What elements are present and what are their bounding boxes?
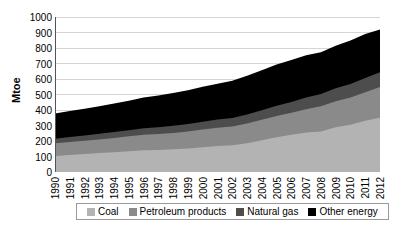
chart-legend: CoalPetroleum productsNatural gasOther e… [76, 203, 389, 220]
plot-area [55, 17, 380, 172]
legend-swatch-icon [87, 208, 95, 216]
y-tick-800: 800 [35, 43, 52, 54]
legend-label: Other energy [319, 206, 377, 217]
x-tick-1997: 1997 [153, 177, 164, 199]
y-tick-400: 400 [35, 105, 52, 116]
x-tick-1994: 1994 [109, 177, 120, 199]
y-tick-1000: 1000 [30, 12, 52, 23]
legend-swatch-icon [236, 208, 244, 216]
x-tick-2012: 2012 [375, 177, 386, 199]
y-tick-300: 300 [35, 120, 52, 131]
y-tick-700: 700 [35, 58, 52, 69]
x-tick-2009: 2009 [331, 177, 342, 199]
chart-canvas [55, 17, 380, 172]
x-tick-1992: 1992 [80, 177, 91, 199]
y-tick-0: 0 [46, 167, 52, 178]
x-tick-1993: 1993 [94, 177, 105, 199]
legend-label: Petroleum products [140, 206, 227, 217]
legend-item-other-energy[interactable]: Other energy [308, 206, 377, 217]
y-tick-100: 100 [35, 151, 52, 162]
x-tick-2011: 2011 [360, 177, 371, 199]
x-tick-2003: 2003 [242, 177, 253, 199]
legend-item-coal[interactable]: Coal [87, 206, 119, 217]
stacked-area-chart: Mtoe 01002003004005006007008009001000 19… [0, 0, 405, 228]
x-tick-2007: 2007 [301, 177, 312, 199]
x-tick-2005: 2005 [272, 177, 283, 199]
legend-item-natural-gas[interactable]: Natural gas [236, 206, 298, 217]
y-tick-200: 200 [35, 136, 52, 147]
x-tick-2000: 2000 [198, 177, 209, 199]
x-tick-2010: 2010 [345, 177, 356, 199]
x-tick-1999: 1999 [183, 177, 194, 199]
x-tick-1998: 1998 [168, 177, 179, 199]
y-tick-600: 600 [35, 74, 52, 85]
x-tick-2002: 2002 [227, 177, 238, 199]
x-tick-1990: 1990 [50, 177, 61, 199]
legend-label: Natural gas [247, 206, 298, 217]
x-tick-2004: 2004 [257, 177, 268, 199]
y-tick-900: 900 [35, 27, 52, 38]
legend-swatch-icon [129, 208, 137, 216]
legend-item-petroleum-products[interactable]: Petroleum products [129, 206, 227, 217]
x-tick-2001: 2001 [213, 177, 224, 199]
stacked-area-layers [55, 29, 380, 172]
x-tick-2006: 2006 [286, 177, 297, 199]
x-tick-1996: 1996 [139, 177, 150, 199]
y-tick-500: 500 [35, 89, 52, 100]
x-tick-2008: 2008 [316, 177, 327, 199]
y-axis-tick-labels: 01002003004005006007008009001000 [0, 0, 52, 228]
legend-label: Coal [98, 206, 119, 217]
legend-swatch-icon [308, 208, 316, 216]
x-tick-1991: 1991 [65, 177, 76, 199]
x-tick-1995: 1995 [124, 177, 135, 199]
